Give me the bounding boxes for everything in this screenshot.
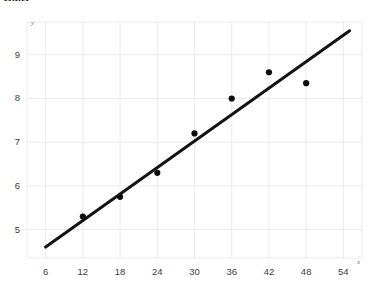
x-tick-label: 30	[183, 266, 207, 277]
regression-line	[46, 31, 350, 247]
y-tick-label: 9	[0, 49, 20, 60]
chart-figure: SMB y x 56789 61218243036424854	[0, 0, 381, 292]
y-tick-label: 6	[0, 180, 20, 191]
x-tick-label: 36	[220, 266, 244, 277]
data-point-marker	[154, 170, 160, 176]
x-tick-label: 18	[108, 266, 132, 277]
x-tick-label: 6	[34, 266, 58, 277]
scatter-plot-canvas	[0, 0, 381, 292]
data-point-marker	[80, 213, 86, 219]
y-axis-title: y	[31, 19, 34, 27]
y-tick-label: 5	[0, 224, 20, 235]
data-point-marker	[191, 130, 197, 136]
data-point-marker	[117, 194, 123, 200]
data-point-marker	[303, 80, 309, 86]
y-tick-label: 7	[0, 136, 20, 147]
x-tick-label: 24	[145, 266, 169, 277]
x-tick-label: 42	[257, 266, 281, 277]
data-point-marker	[229, 95, 235, 101]
y-tick-label: 8	[0, 92, 20, 103]
x-axis-title: x	[357, 258, 360, 266]
x-tick-label: 12	[71, 266, 95, 277]
trend-line	[46, 31, 350, 247]
x-tick-label: 48	[294, 266, 318, 277]
x-tick-label: 54	[331, 266, 355, 277]
data-point-marker	[266, 69, 272, 75]
